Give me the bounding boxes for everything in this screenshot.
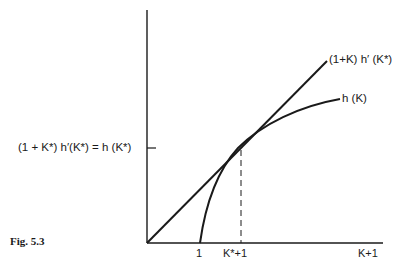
- tangent-line: [147, 61, 327, 243]
- x-tick-label-kstar: K*+1: [223, 248, 247, 259]
- x-axis-label: K+1: [358, 248, 378, 259]
- figure-5-3: (1 + K*) h′(K*) = h (K*) (1+K) h′ (K*) h…: [0, 0, 411, 270]
- diagram-canvas: [0, 0, 411, 270]
- curve-label: h (K): [342, 93, 367, 105]
- h-curve: [200, 99, 340, 243]
- figure-caption: Fig. 5.3: [10, 236, 45, 247]
- y-tick-label: (1 + K*) h′(K*) = h (K*): [18, 142, 131, 154]
- line-label: (1+K) h′ (K*): [329, 54, 392, 66]
- x-tick-label-1: 1: [196, 248, 202, 259]
